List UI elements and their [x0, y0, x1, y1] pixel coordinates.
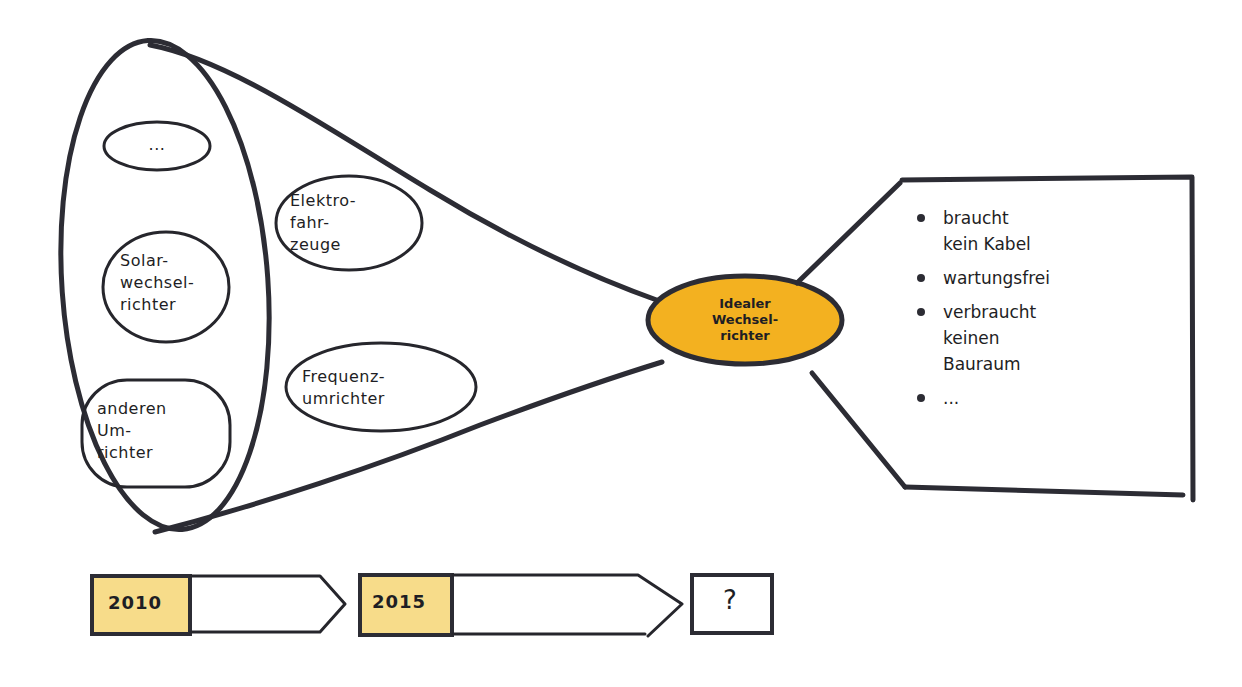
property-item: wartungsfrei [915, 265, 1175, 291]
connector-bottom [812, 373, 905, 487]
property-item: ... [915, 385, 1175, 411]
property-item: verbraucht keinen Bauraum [915, 299, 1175, 377]
property-label: wartungsfrei [943, 268, 1050, 288]
timeline-arrow-2 [453, 575, 682, 636]
property-label: ... [943, 388, 959, 408]
connector-top [797, 183, 900, 283]
properties-list: braucht kein Kabel wartungsfrei verbrauc… [915, 205, 1175, 419]
hub-label: Idealer Wechsel- richter [680, 296, 810, 344]
bubble-ev-label: Elektro- fahr- zeuge [290, 190, 420, 256]
bubble-other-label: anderen Um- richter [97, 398, 227, 464]
bullet-icon [917, 274, 925, 282]
bubble-ellipsis-label: ... [117, 134, 197, 156]
timeline-future-question: ? [723, 585, 737, 615]
bubble-freq-label: Frequenz- umrichter [302, 366, 472, 410]
timeline-year-2010: 2010 [108, 592, 162, 613]
bullet-icon [917, 308, 925, 316]
bullet-icon [917, 394, 925, 402]
bullet-icon [917, 214, 925, 222]
property-label: verbraucht keinen Bauraum [943, 302, 1036, 374]
property-item: braucht kein Kabel [915, 205, 1175, 257]
timeline-arrow-1 [191, 576, 345, 632]
bubble-solar-label: Solar- wechsel- richter [120, 250, 230, 316]
property-label: braucht kein Kabel [943, 208, 1031, 254]
timeline-year-2015: 2015 [372, 591, 426, 612]
